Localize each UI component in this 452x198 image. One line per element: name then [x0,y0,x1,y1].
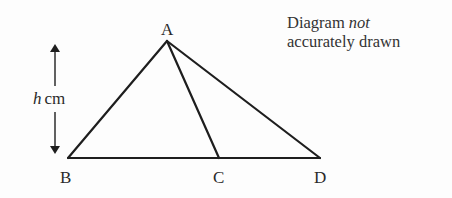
segment-ac [167,41,219,158]
vertex-label-c: C [213,168,224,187]
segment-ab [68,41,167,158]
vertex-label-d: D [314,168,326,187]
vertex-label-a: A [161,20,174,39]
note-prefix: Diagram [287,13,349,32]
height-variable: h [33,89,42,108]
note-line-1: Diagram not [287,13,400,32]
note-line-2: accurately drawn [287,32,400,51]
vertex-label-b: B [60,168,71,187]
height-label: hcm [33,88,65,110]
geometry-diagram: A B C D hcm Diagram not accurately drawn [0,0,452,198]
note-emphasis: not [349,13,370,32]
segment-ad [167,41,320,158]
not-to-scale-note: Diagram not accurately drawn [287,13,400,51]
height-unit: cm [45,89,66,108]
